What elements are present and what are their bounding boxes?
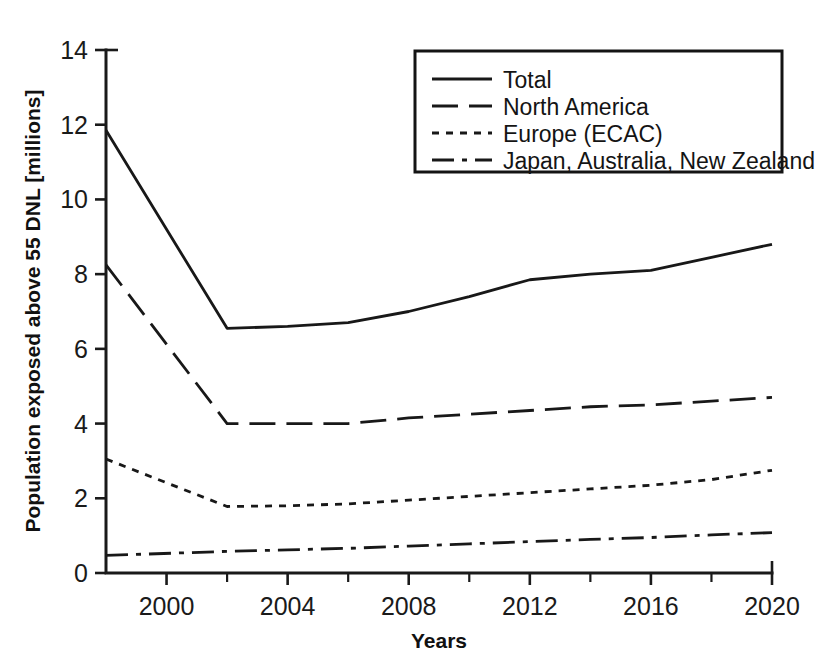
y-tick-label: 14 bbox=[60, 36, 88, 64]
y-tick-label: 8 bbox=[74, 260, 88, 288]
y-tick-label: 2 bbox=[74, 484, 88, 512]
x-tick-label: 2000 bbox=[139, 592, 195, 620]
series-line-2 bbox=[106, 459, 772, 506]
data-series bbox=[106, 130, 772, 555]
x-axis-title: Years bbox=[411, 629, 467, 652]
legend-label-2: Europe (ECAC) bbox=[503, 121, 663, 147]
x-tick-label: 2008 bbox=[381, 592, 437, 620]
y-tick-label: 0 bbox=[74, 559, 88, 587]
series-line-3 bbox=[106, 533, 772, 556]
x-tick-label: 2020 bbox=[744, 592, 800, 620]
chart-page: 02468101214 200020042008201220162020 Yea… bbox=[0, 0, 838, 665]
line-chart: 02468101214 200020042008201220162020 Yea… bbox=[0, 0, 838, 665]
y-tick-label: 10 bbox=[60, 185, 88, 213]
x-tick-label: 2012 bbox=[502, 592, 558, 620]
y-axis-title: Population exposed above 55 DNL [million… bbox=[21, 89, 44, 532]
x-axis-tick-labels: 200020042008201220162020 bbox=[139, 592, 800, 620]
legend-label-3: Japan, Australia, New Zealand bbox=[503, 148, 815, 174]
legend-label-1: North America bbox=[503, 94, 649, 120]
y-axis-tick-labels: 02468101214 bbox=[60, 36, 88, 587]
y-tick-label: 4 bbox=[74, 410, 88, 438]
legend-label-0: Total bbox=[503, 67, 552, 93]
x-tick-label: 2016 bbox=[623, 592, 679, 620]
y-axis-ticks bbox=[95, 50, 106, 573]
y-tick-label: 6 bbox=[74, 335, 88, 363]
y-tick-label: 12 bbox=[60, 111, 88, 139]
legend: TotalNorth AmericaEurope (ECAC)Japan, Au… bbox=[415, 51, 815, 174]
x-tick-label: 2004 bbox=[260, 592, 316, 620]
series-line-1 bbox=[106, 265, 772, 424]
